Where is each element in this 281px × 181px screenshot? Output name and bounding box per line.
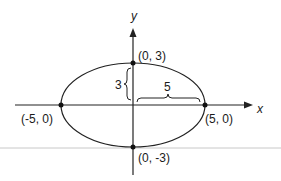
brace-vertical-icon xyxy=(124,68,131,100)
label-semi-minor: 3 xyxy=(115,78,122,92)
point-top xyxy=(131,61,136,66)
label-semi-major: 5 xyxy=(164,80,171,94)
y-axis-arrow-icon xyxy=(130,28,137,37)
ellipse-diagram: y x (0, 3) (0, -3) (-5, 0) (5, 0) 3 5 xyxy=(0,0,281,181)
point-right xyxy=(203,103,208,108)
label-left-point: (-5, 0) xyxy=(21,112,53,126)
brace-horizontal-icon xyxy=(137,94,200,102)
point-left xyxy=(59,103,64,108)
label-top-point: (0, 3) xyxy=(138,49,166,63)
point-bottom xyxy=(131,145,136,150)
y-axis-label: y xyxy=(130,9,138,23)
x-axis-arrow-icon xyxy=(244,102,253,109)
label-right-point: (5, 0) xyxy=(205,112,233,126)
label-bottom-point: (0, -3) xyxy=(138,151,170,165)
x-axis-label: x xyxy=(256,102,264,116)
